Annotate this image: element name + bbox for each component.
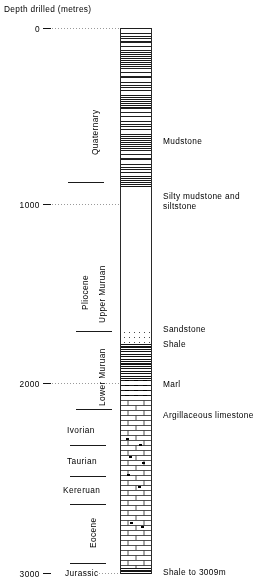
lithology-band-mudstone bbox=[120, 159, 152, 176]
lithology-label-silty-mudstone: Silty mudstone and siltstone bbox=[163, 192, 240, 211]
lithology-label-silty-mudstone-line1: Silty mudstone and bbox=[163, 191, 240, 201]
lithology-band-mudstone bbox=[120, 52, 152, 68]
limestone-inclusion-marker bbox=[130, 522, 133, 524]
chrono-unit-lower-muruan: Lower Muruan bbox=[97, 348, 107, 406]
depth-tick-label-3000: 3000 bbox=[6, 569, 40, 579]
lithology-label-sandstone: Sandstone bbox=[163, 325, 206, 335]
chrono-divider-lower-muruan-base bbox=[76, 409, 112, 410]
chrono-unit-ivorian: Ivorian bbox=[67, 425, 95, 435]
lithology-label-marl: Marl bbox=[163, 380, 181, 390]
chrono-unit-eocene: Eocene bbox=[88, 517, 98, 548]
limestone-inclusion-marker bbox=[138, 486, 141, 488]
depth-tick-leader-0 bbox=[52, 28, 120, 29]
lithology-band-mudstone bbox=[120, 150, 152, 159]
lithology-label-basal-shale: Shale to 3009m bbox=[163, 568, 226, 578]
limestone-inclusion-marker bbox=[127, 474, 130, 476]
depth-tick-dash-3000 bbox=[43, 573, 51, 574]
depth-tick-dash-2000 bbox=[43, 383, 51, 384]
lithology-band-mudstone bbox=[120, 136, 152, 150]
chrono-divider-ivorian-base bbox=[70, 445, 106, 446]
lithology-band-marl bbox=[120, 380, 152, 400]
limestone-inclusion-marker bbox=[139, 444, 142, 446]
limestone-inclusion-marker bbox=[126, 438, 129, 440]
lithology-band-mudstone bbox=[120, 77, 152, 95]
limestone-inclusion-marker bbox=[142, 462, 145, 464]
depth-tick-leader-2000 bbox=[52, 383, 120, 384]
depth-tick-label-0: 0 bbox=[14, 24, 40, 34]
depth-tick-label-2000: 2000 bbox=[6, 379, 40, 389]
stratigraphic-well-log-figure: Depth drilled (metres) 0 1000 2000 3000 … bbox=[0, 0, 270, 588]
chrono-unit-quaternary: Quaternary bbox=[90, 109, 100, 155]
brick-pattern-icon bbox=[120, 400, 152, 568]
lithology-band-mudstone bbox=[120, 68, 152, 77]
lithology-band-basal-shale bbox=[120, 568, 152, 574]
depth-tick-label-1000: 1000 bbox=[6, 200, 40, 210]
chrono-unit-upper-muruan: Upper Muruan bbox=[97, 265, 107, 323]
lithology-band-argillaceous-limestone bbox=[120, 400, 152, 568]
chrono-divider-eocene-base bbox=[70, 563, 106, 564]
page-title: Depth drilled (metres) bbox=[4, 4, 91, 14]
lithology-band-sandstone bbox=[120, 328, 152, 344]
lithology-band-mudstone bbox=[120, 116, 152, 136]
chrono-unit-kereruan: Kereruan bbox=[63, 485, 100, 495]
chrono-unit-jurassic: Jurassic bbox=[65, 568, 99, 578]
lithology-label-shale: Shale bbox=[163, 340, 186, 350]
chrono-divider-upper-muruan-base bbox=[76, 331, 112, 332]
lithology-band-mudstone bbox=[120, 28, 152, 42]
chrono-unit-taurian: Taurian bbox=[67, 456, 97, 466]
chrono-divider-kereruan-base bbox=[70, 504, 106, 505]
lithology-band-mudstone bbox=[120, 95, 152, 108]
lithology-band-mudstone bbox=[120, 42, 152, 52]
depth-tick-leader-3000 bbox=[99, 573, 120, 574]
chrono-unit-pliocene: Pliocene bbox=[80, 275, 90, 310]
lithology-column bbox=[120, 28, 152, 574]
lithology-band-silty-mudstone bbox=[120, 188, 152, 328]
lithology-label-mudstone: Mudstone bbox=[163, 137, 202, 147]
depth-tick-leader-1000 bbox=[52, 204, 120, 205]
lithology-label-silty-mudstone-line2: siltstone bbox=[163, 201, 197, 211]
depth-tick-dash-1000 bbox=[43, 204, 51, 205]
lithology-label-argillaceous-limestone: Argillaceous limestone bbox=[163, 411, 254, 421]
lithology-band-shale bbox=[120, 344, 152, 380]
depth-tick-dash-0 bbox=[43, 28, 51, 29]
chrono-divider-taurian-base bbox=[70, 476, 106, 477]
lithology-band-mudstone bbox=[120, 108, 152, 116]
limestone-inclusion-marker bbox=[141, 526, 144, 528]
chrono-divider-quaternary-base bbox=[68, 182, 104, 183]
limestone-inclusion-marker bbox=[129, 456, 132, 458]
lithology-band-mudstone bbox=[120, 176, 152, 188]
